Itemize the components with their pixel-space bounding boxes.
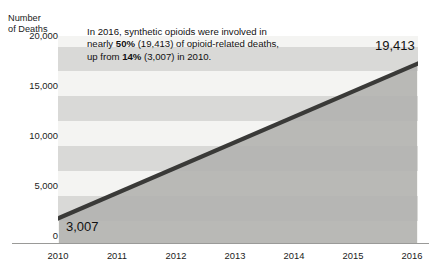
series-area-and-line <box>58 36 418 243</box>
annotation-line-3: up from 14% (3,007) in 2010. <box>87 51 339 63</box>
start-value-label: 3,007 <box>66 219 99 234</box>
annotation-text: (19,413) of opioid-related deaths, <box>135 38 279 49</box>
chart-annotation: In 2016, synthetic opioids were involved… <box>87 26 339 63</box>
annotation-text: nearly <box>87 38 116 49</box>
x-tick-label: 2016 <box>384 250 440 261</box>
y-tick-label: 5,000 <box>6 181 58 191</box>
x-tick-label: 2010 <box>30 250 86 261</box>
annotation-line-2: nearly 50% (19,413) of opioid-related de… <box>87 38 339 50</box>
x-tick-label: 2014 <box>266 250 322 261</box>
annotation-emphasis: 14% <box>122 51 141 62</box>
opioid-deaths-chart: Number of Deaths 20,000 15,000 10,000 5,… <box>0 0 441 277</box>
x-tick-label: 2015 <box>325 250 381 261</box>
annotation-line-1: In 2016, synthetic opioids were involved… <box>87 26 339 38</box>
x-tick-label: 2013 <box>207 250 263 261</box>
area-fill <box>59 64 417 243</box>
y-tick-label: 10,000 <box>6 131 58 141</box>
annotation-text: In 2016, synthetic opioids were involved… <box>87 26 267 37</box>
annotation-text: up from <box>87 51 122 62</box>
y-tick-label: 20,000 <box>6 31 58 41</box>
annotation-emphasis: 50% <box>116 38 135 49</box>
y-tick-label: 15,000 <box>6 81 58 91</box>
x-axis-line <box>12 243 429 244</box>
y-tick-label: 0 <box>6 231 58 241</box>
end-value-label: 19,413 <box>375 38 415 53</box>
annotation-text: (3,007) in 2010. <box>141 51 211 62</box>
plot-area <box>58 36 418 243</box>
x-tick-label: 2012 <box>148 250 204 261</box>
x-tick-label: 2011 <box>89 250 145 261</box>
